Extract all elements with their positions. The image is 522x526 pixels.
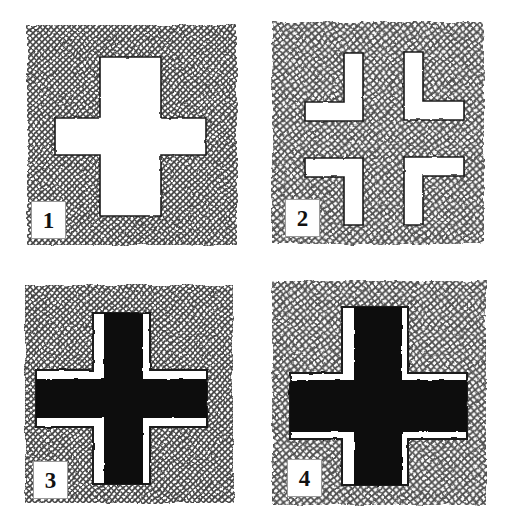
panel-1: 1 xyxy=(0,0,261,263)
figure-root: 1 2 xyxy=(0,0,522,526)
panel-label-1: 1 xyxy=(43,209,55,232)
panel-label-2: 2 xyxy=(297,207,309,230)
panel-3: 3 xyxy=(0,263,261,526)
panel-label-box-2: 2 xyxy=(285,199,320,237)
panel-label-4: 4 xyxy=(299,467,311,490)
panel-4: 4 xyxy=(261,263,522,526)
panel-2: 2 xyxy=(261,0,522,263)
panel-label-box-1: 1 xyxy=(31,201,66,239)
panel-label-box-4: 4 xyxy=(287,459,322,497)
panel-label-box-3: 3 xyxy=(33,461,68,499)
panel-label-3: 3 xyxy=(45,469,57,492)
